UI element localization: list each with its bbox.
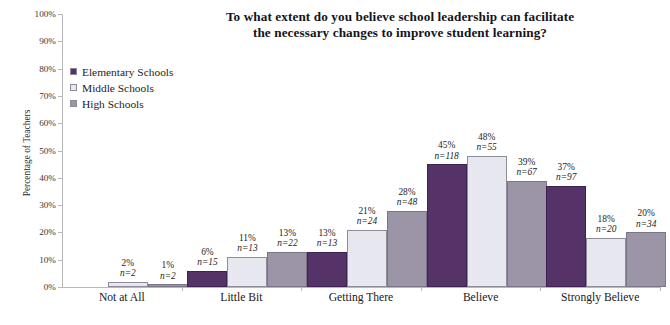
x-axis-category-label: Getting There xyxy=(301,291,421,304)
y-axis-tick-label: 90% xyxy=(20,36,56,46)
bar-value-label: 2%n=2 xyxy=(100,258,156,279)
bar-percent: 21% xyxy=(358,206,375,216)
bar-high-1[interactable] xyxy=(267,252,307,287)
y-axis-tick-label: 100% xyxy=(20,9,56,19)
x-axis-category-label: Little Bit xyxy=(182,291,302,304)
y-axis-tick-label: 20% xyxy=(20,227,56,237)
bar-count: n=67 xyxy=(499,167,555,178)
bar-percent: 28% xyxy=(398,187,415,197)
x-axis-line xyxy=(62,287,660,288)
y-axis-line xyxy=(62,14,63,288)
bar-percent: 6% xyxy=(201,247,214,257)
bar-middle-3[interactable] xyxy=(467,156,507,287)
bar-middle-2[interactable] xyxy=(347,230,387,287)
y-axis-tick-mark xyxy=(58,232,62,233)
bar-percent: 39% xyxy=(518,157,535,167)
bar-middle-0[interactable] xyxy=(108,282,148,287)
bar-count: n=22 xyxy=(259,238,315,249)
bar-percent: 2% xyxy=(122,258,135,268)
bar-high-3[interactable] xyxy=(507,181,547,287)
bar-value-label: 39%n=67 xyxy=(499,157,555,178)
bar-elementary-1[interactable] xyxy=(187,271,227,287)
y-axis-tick-mark xyxy=(58,287,62,288)
bar-percent: 13% xyxy=(279,228,296,238)
bar-percent: 18% xyxy=(598,214,615,224)
y-axis-tick-mark xyxy=(58,205,62,206)
bar-percent: 1% xyxy=(162,260,175,270)
bar-value-label: 48%n=55 xyxy=(459,132,515,153)
bar-percent: 13% xyxy=(318,228,335,238)
y-axis-tick-label: 30% xyxy=(20,200,56,210)
bar-elementary-3[interactable] xyxy=(427,164,467,287)
bar-percent: 37% xyxy=(558,162,575,172)
bar-count: n=34 xyxy=(618,219,670,230)
bar-high-4[interactable] xyxy=(626,232,666,287)
y-axis-tick-label: 10% xyxy=(20,255,56,265)
bar-percent: 45% xyxy=(438,140,455,150)
x-axis-category-label: Believe xyxy=(421,291,541,304)
y-axis-tick-mark xyxy=(58,96,62,97)
y-axis-tick-mark xyxy=(58,14,62,15)
y-axis-tick-label: 80% xyxy=(20,64,56,74)
bar-percent: 11% xyxy=(239,233,256,243)
bar-value-label: 20%n=34 xyxy=(618,208,670,229)
bar-value-label: 13%n=22 xyxy=(259,228,315,249)
y-axis-tick-mark xyxy=(58,123,62,124)
bar-middle-1[interactable] xyxy=(227,257,267,287)
bar-percent: 20% xyxy=(638,208,655,218)
y-axis-tick-mark xyxy=(58,178,62,179)
y-axis-tick-mark xyxy=(58,41,62,42)
bar-count: n=55 xyxy=(459,142,515,153)
x-axis-category-label: Strongly Believe xyxy=(540,291,660,304)
y-axis-tick-label: 0% xyxy=(20,282,56,292)
bar-elementary-4[interactable] xyxy=(546,186,586,287)
x-axis-tick-mark xyxy=(660,287,661,291)
bar-high-2[interactable] xyxy=(387,211,427,287)
y-axis-tick-mark xyxy=(58,260,62,261)
y-axis-tick-label: 70% xyxy=(20,91,56,101)
bar-count: n=2 xyxy=(100,268,156,279)
bar-elementary-2[interactable] xyxy=(307,252,347,287)
y-axis-tick-label: 40% xyxy=(20,173,56,183)
y-axis-tick-mark xyxy=(58,69,62,70)
plot-area: 100%90%80%70%60%50%40%30%20%10%0%2%n=21%… xyxy=(62,14,660,287)
bar-middle-4[interactable] xyxy=(586,238,626,287)
x-axis-category-label: Not at All xyxy=(62,291,182,304)
y-axis-tick-label: 50% xyxy=(20,146,56,156)
y-axis-tick-mark xyxy=(58,151,62,152)
bar-percent: 48% xyxy=(478,132,495,142)
y-axis-tick-label: 60% xyxy=(20,118,56,128)
